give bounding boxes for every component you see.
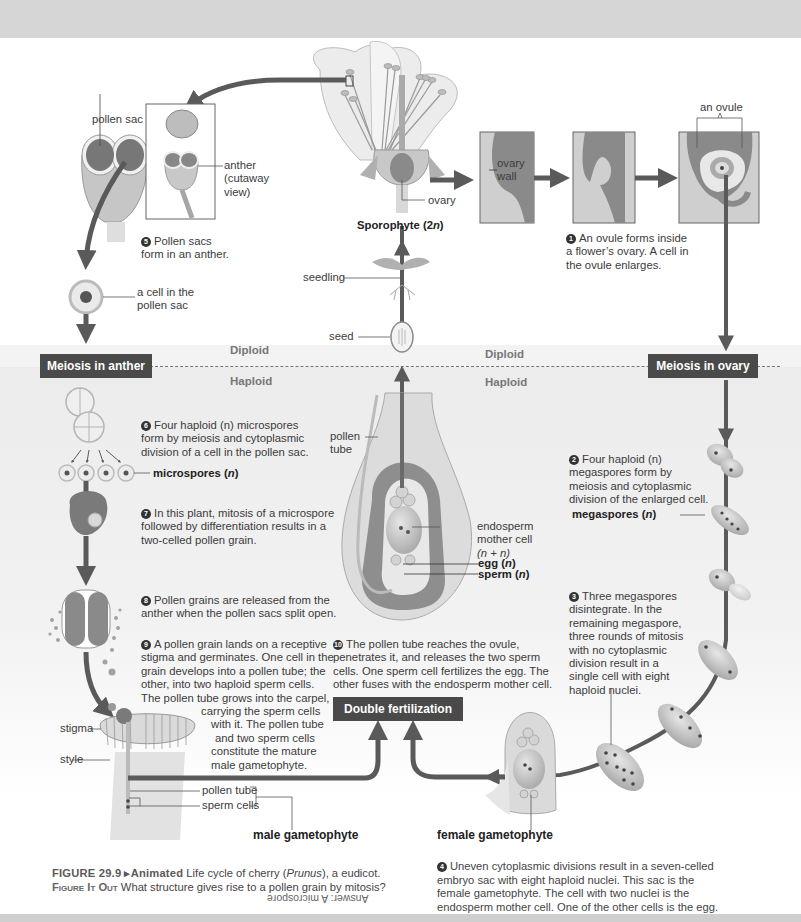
meiosis-in-ovary-box: Meiosis in ovary (648, 354, 758, 378)
diploid-label-left: Diploid (230, 344, 269, 356)
step-3: 3Three megaspores disintegrate. In the r… (569, 590, 683, 697)
step-number-badge: 8 (141, 596, 151, 606)
label-female-gametophyte: female gametophyte (437, 829, 553, 842)
step-number-badge: 9 (141, 640, 151, 650)
label-sperm: sperm (n) (478, 568, 529, 581)
label-sporophyte: Sporophyte (2n) (357, 219, 444, 232)
label-pollen-sac: pollen sac (92, 113, 143, 126)
step-8: 8Pollen grains are released from the ant… (141, 594, 336, 621)
figure-caption: FIGURE 29.9 ▸Animated Life cycle of cher… (52, 867, 386, 894)
label-seedling: seedling (303, 271, 345, 284)
double-fertilization-box: Double fertilization (333, 697, 463, 721)
label-pollen-tube-center: pollen tube (330, 430, 360, 457)
haploid-label-right: Haploid (485, 376, 527, 388)
label-style: style (60, 753, 83, 766)
step-number-badge: 2 (569, 455, 579, 465)
label-cell-in-pollen-sac: a cell in the pollen sac (137, 286, 194, 313)
female-gametophyte-illustration (485, 713, 556, 816)
label-male-gametophyte: male gametophyte (253, 829, 358, 842)
figure-question: What structure gives rise to a pollen gr… (121, 881, 386, 893)
step-7: 7In this plant, mitosis of a microspore … (141, 507, 334, 547)
meiosis-in-anther-box: Meiosis in anther (40, 354, 152, 378)
step-number-badge: 6 (141, 421, 151, 431)
step-2: 2Four haploid (n) megaspores form by mei… (569, 453, 708, 507)
bottom-rule (0, 914, 801, 922)
label-ovary-wall: ovary wall (497, 157, 525, 184)
step-number-badge: 4 (437, 862, 447, 872)
step-number-badge: 5 (141, 237, 151, 247)
haploid-label-left: Haploid (230, 375, 272, 387)
label-stigma: stigma (60, 722, 93, 735)
label-pollen-tube-bottom: pollen tube (202, 784, 257, 797)
label-endosperm-mother-cell: endosperm mother cell (n + n) (477, 520, 534, 560)
step-number-badge: 10 (333, 640, 343, 650)
label-seed: seed (329, 330, 354, 343)
label-microspores: microspores (n) (153, 467, 238, 480)
carpel-ovule-illustration (342, 393, 472, 620)
step-4: 4Uneven cytoplasmic divisions result in … (437, 860, 718, 914)
figure-answer-upside-down: Answer: A microspore (267, 893, 369, 905)
figure-number: FIGURE 29.9 (52, 867, 121, 879)
step-number-badge: 1 (566, 234, 576, 244)
step-9: 9A pollen grain lands on a receptive sti… (141, 638, 334, 772)
step-number-badge: 7 (141, 509, 151, 519)
animated-link[interactable]: ▸Animated (124, 867, 183, 879)
figure-it-out-label: Figure It Out (52, 881, 118, 893)
label-ovary: ovary (428, 194, 456, 207)
step-5: 5Pollen sacs form in an anther. (141, 235, 229, 262)
step-number-badge: 3 (569, 592, 579, 602)
step-6: 6Four haploid (n) microspores form by me… (141, 419, 309, 459)
diploid-label-right: Diploid (485, 348, 524, 360)
label-an-ovule: an ovule (700, 101, 743, 114)
label-megaspores: megaspores (n) (572, 508, 656, 521)
label-sperm-cells: sperm cells (202, 799, 259, 812)
label-anther: anther (cutaway view) (224, 159, 269, 199)
step-10: 10The pollen tube reaches the ovule, pen… (333, 638, 552, 692)
step-1: 1An ovule forms inside a flower’s ovary.… (566, 232, 688, 272)
flower-illustration (313, 41, 457, 213)
